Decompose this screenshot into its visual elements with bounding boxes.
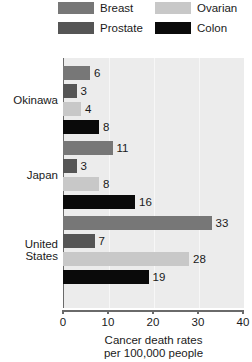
x-tick-30 [197, 310, 199, 314]
category-label-line: Japan [0, 169, 58, 182]
bar-value-label: 8 [103, 177, 109, 191]
bar-united-states-breast [63, 216, 212, 230]
category-label-line: States [0, 250, 58, 263]
category-label-line: Okinawa [0, 94, 58, 107]
legend-swatch-ovarian [155, 2, 191, 14]
bar-okinawa-prostate [63, 84, 77, 98]
bar-okinawa-colon [63, 120, 99, 134]
x-tick-label-30: 30 [192, 316, 205, 328]
bar-okinawa-breast [63, 66, 90, 80]
legend-label-breast: Breast [100, 2, 133, 14]
x-tick-10 [107, 310, 109, 314]
bar-japan-breast [63, 141, 113, 155]
legend-label-ovarian: Ovarian [197, 2, 237, 14]
bar-japan-ovarian [63, 177, 99, 191]
caption-line-2: per 100,000 people [63, 347, 244, 360]
category-label-united-states: UnitedStates [0, 238, 58, 263]
bar-value-label: 4 [85, 102, 91, 116]
caption-line-1: Cancer death rates [63, 334, 244, 347]
bar-united-states-prostate [63, 234, 95, 248]
legend-item-ovarian: Ovarian [155, 2, 237, 14]
category-label-okinawa: Okinawa [0, 94, 58, 107]
x-tick-40 [242, 310, 244, 314]
x-tick-0 [62, 310, 64, 314]
bar-united-states-colon [63, 270, 149, 284]
legend-label-prostate: Prostate [100, 22, 143, 34]
bar-value-label: 6 [94, 66, 100, 80]
bar-value-label: 19 [153, 270, 166, 284]
legend-swatch-breast [58, 2, 94, 14]
x-tick-label-0: 0 [60, 316, 66, 328]
legend-item-prostate: Prostate [58, 22, 143, 34]
gridline-30 [199, 58, 200, 308]
x-tick-label-10: 10 [102, 316, 115, 328]
chart-plot-wrapper: OkinawaJapanUnitedStates 634811381633728… [0, 58, 252, 310]
x-tick-label-20: 20 [147, 316, 160, 328]
bar-value-label: 28 [193, 252, 206, 266]
category-label-line: United [0, 238, 58, 251]
legend-swatch-colon [155, 22, 191, 34]
category-label-japan: Japan [0, 169, 58, 182]
bar-value-label: 11 [117, 141, 129, 155]
legend-swatch-prostate [58, 22, 94, 34]
bar-japan-colon [63, 195, 135, 209]
legend-label-colon: Colon [197, 22, 227, 34]
bar-japan-prostate [63, 159, 77, 173]
x-axis-caption: Cancer death rates per 100,000 people [63, 334, 244, 360]
x-tick-label-40: 40 [237, 316, 250, 328]
bar-value-label: 7 [99, 234, 105, 248]
bar-value-label: 8 [103, 120, 109, 134]
bar-okinawa-ovarian [63, 102, 81, 116]
x-tick-20 [152, 310, 154, 314]
legend-item-colon: Colon [155, 22, 227, 34]
chart-legend: Breast Prostate Ovarian Colon [0, 0, 252, 46]
bar-value-label: 3 [81, 84, 87, 98]
legend-item-breast: Breast [58, 2, 133, 14]
bar-value-label: 16 [139, 195, 152, 209]
bar-value-label: 3 [81, 159, 87, 173]
bar-value-label: 33 [216, 216, 229, 230]
bar-united-states-ovarian [63, 252, 189, 266]
